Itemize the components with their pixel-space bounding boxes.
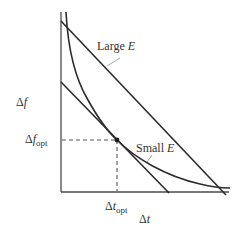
large-e-leader	[107, 58, 120, 66]
optimum-point	[115, 138, 120, 143]
small-e-label: Small E	[136, 141, 175, 155]
tradeoff-diagram: Large E Small E Δf Δfopt Δtopt Δt	[0, 0, 242, 232]
small-e-leader	[147, 155, 152, 162]
x-axis-label: Δt	[139, 212, 151, 226]
t-opt-label: Δtopt	[105, 199, 128, 215]
large-e-label: Large E	[97, 39, 136, 53]
f-opt-label: Δfopt	[25, 132, 48, 148]
uncertainty-curve	[66, 12, 230, 188]
y-axis-label: Δf	[16, 95, 29, 109]
